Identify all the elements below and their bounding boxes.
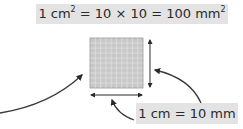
length-equation-label: 1 cm = 10 mm	[136, 103, 238, 124]
bottom-curved-pointer-arrow	[112, 100, 134, 120]
left-curved-pointer-arrow	[0, 75, 82, 113]
grid-square	[90, 38, 143, 88]
right-curved-pointer-arrow	[155, 70, 201, 103]
